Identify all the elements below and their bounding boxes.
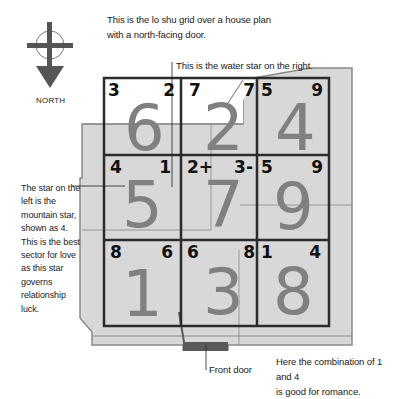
grid-cell-north: 7 7 2 [181, 78, 257, 155]
water-star: 6 [161, 244, 173, 261]
base-number: 8 [273, 260, 314, 324]
base-number: 3 [203, 260, 244, 324]
base-number: 6 [124, 96, 165, 160]
mountain-star: 5 [261, 82, 273, 99]
water-star: 7 [243, 82, 255, 99]
mountain-star: 3 [108, 82, 120, 99]
grid-cell-east: 5 9 9 [257, 155, 329, 240]
front-door-label: Front door [209, 362, 252, 377]
compass-label: NORTH [36, 96, 65, 105]
mountain-star: 6 [187, 244, 199, 261]
water-star: 2 [163, 82, 175, 99]
base-number: 7 [203, 173, 244, 237]
grid-cell-northwest: 3 2 6 [104, 78, 181, 155]
base-number: 5 [122, 173, 163, 237]
base-number: 1 [122, 262, 163, 326]
base-number: 2 [203, 96, 244, 160]
grid-cell-southwest: 8 6 1 [104, 240, 181, 326]
romance-caption: Here the combination of 1 and 4 is good … [276, 354, 395, 399]
mountain-star: 1 [261, 244, 273, 261]
mountain-star: 8 [110, 244, 122, 261]
compass-north-arrow-icon [27, 22, 73, 88]
base-number: 4 [275, 96, 316, 160]
front-door [183, 342, 228, 351]
mountain-star: 7 [189, 82, 201, 99]
title-caption: This is the lo shu grid over a house pla… [107, 12, 271, 42]
water-star: 8 [243, 244, 255, 261]
grid-cell-northeast: 5 9 4 [257, 78, 329, 155]
grid-cell-center: 2+ 3- 7 [181, 155, 257, 240]
base-number: 9 [273, 175, 314, 239]
mountain-star: 4 [110, 159, 122, 176]
water-star-caption: This is the water star on the right. [176, 58, 313, 73]
mountain-star-caption: The star on the left is the mountain sta… [21, 182, 80, 316]
grid-cell-west: 4 1 5 [104, 155, 181, 240]
mountain-star: 5 [261, 159, 273, 176]
grid-cell-southeast: 1 4 8 [257, 240, 329, 326]
grid-cell-south: 6 8 3 [181, 240, 257, 326]
